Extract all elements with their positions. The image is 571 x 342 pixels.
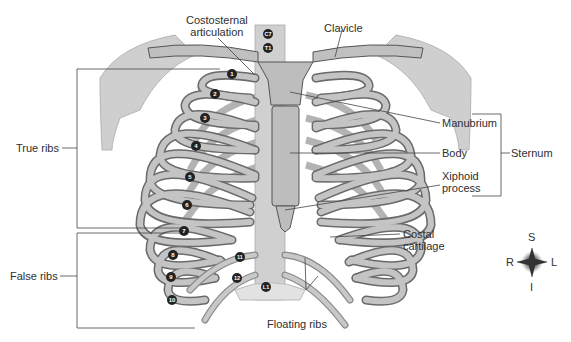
svg-text:C7: C7 xyxy=(264,31,271,37)
label-floating-ribs: Floating ribs xyxy=(267,318,327,330)
label-clavicle: Clavicle xyxy=(324,22,363,34)
compass-rose-icon xyxy=(517,248,547,277)
svg-text:12: 12 xyxy=(234,275,240,281)
label-false-ribs: False ribs xyxy=(10,270,58,282)
compass-right: R xyxy=(506,256,514,268)
compass-superior: S xyxy=(528,231,535,243)
thoracic-cage-diagram: C7 T1 11 12 L1 1 2 3 4 5 6 7 8 9 10 xyxy=(0,0,571,342)
label-manubrium: Manubrium xyxy=(442,117,497,129)
label-true-ribs: True ribs xyxy=(16,142,59,154)
svg-text:T1: T1 xyxy=(265,45,271,51)
label-xiphoid-process: Xiphoid process xyxy=(442,170,481,194)
label-costal-cartilage: Costal cartilage xyxy=(403,228,445,252)
sternum-body xyxy=(272,106,299,206)
clavicles xyxy=(148,45,423,62)
svg-text:11: 11 xyxy=(237,254,243,260)
compass-left: L xyxy=(551,256,557,268)
label-body: Body xyxy=(442,147,467,159)
svg-text:10: 10 xyxy=(169,297,176,303)
label-sternum: Sternum xyxy=(511,147,553,159)
label-costosternal-articulation: Costosternal articulation xyxy=(186,14,248,38)
svg-text:L1: L1 xyxy=(263,284,269,290)
compass-inferior: I xyxy=(530,281,533,293)
